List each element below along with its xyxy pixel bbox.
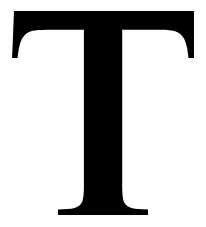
glyph-canvas: T	[0, 0, 206, 227]
letter-t-svg	[0, 0, 206, 227]
